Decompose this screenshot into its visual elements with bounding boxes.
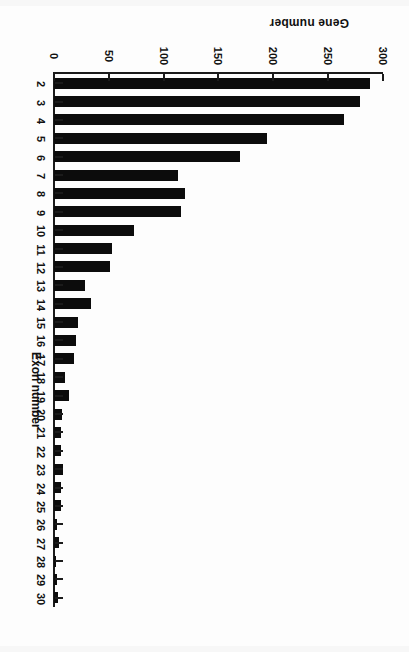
exon-number-axis-title: Exon number [29, 352, 43, 429]
exon-tick [55, 192, 63, 194]
exon-tick [55, 450, 63, 452]
exon-tick [55, 101, 63, 103]
exon-tick [55, 431, 63, 433]
gene-tick [382, 74, 384, 81]
exon-tick [55, 376, 63, 378]
gene-tick-label: 200 [267, 39, 279, 73]
bar [54, 78, 370, 89]
exon-tick [55, 248, 63, 250]
gene-tick-label: 100 [158, 39, 170, 73]
exon-tick [55, 597, 63, 599]
scan-artifact-bottom [0, 0, 409, 6]
bar [54, 225, 134, 236]
gene-number-axis-title: Gene number [269, 16, 349, 30]
chart-figure: 2345678910111213141516171819202122232425… [0, 0, 409, 652]
exon-tick [55, 340, 63, 342]
exon-tick [55, 119, 63, 121]
exon-tick [55, 211, 63, 213]
exon-tick [55, 487, 63, 489]
exon-tick [55, 229, 63, 231]
exon-tick [55, 82, 63, 84]
scan-artifact-top [0, 646, 409, 652]
exon-tick [55, 505, 63, 507]
gene-tick-label: 150 [213, 39, 225, 73]
exon-tick [55, 321, 63, 323]
gene-tick-label: 0 [48, 39, 60, 73]
exon-tick [55, 413, 63, 415]
exon-tick [55, 468, 63, 470]
exon-tick [55, 542, 63, 544]
exon-tick [55, 266, 63, 268]
exon-tick [55, 560, 63, 562]
exon-tick [55, 156, 63, 158]
gene-tick [163, 74, 165, 81]
bar [54, 133, 267, 144]
gene-tick [108, 74, 110, 81]
bar [54, 114, 344, 125]
gene-tick-label: 250 [322, 39, 334, 73]
exon-tick [55, 284, 63, 286]
bar [54, 188, 185, 199]
exon-tick [55, 174, 63, 176]
gene-tick [218, 74, 220, 81]
exon-tick [55, 303, 63, 305]
bar [54, 151, 240, 162]
exon-tick-label: 30 [35, 588, 47, 610]
bar [54, 96, 360, 107]
exon-tick [55, 358, 63, 360]
gene-tick-label: 300 [377, 39, 389, 73]
exon-tick [55, 395, 63, 397]
gene-tick [327, 74, 329, 81]
gene-tick [272, 74, 274, 81]
bar [54, 170, 178, 181]
gene-tick-label: 50 [103, 39, 115, 73]
exon-tick [55, 578, 63, 580]
bar [54, 206, 181, 217]
exon-tick [55, 137, 63, 139]
exon-tick [55, 523, 63, 525]
gene-tick [53, 74, 55, 81]
